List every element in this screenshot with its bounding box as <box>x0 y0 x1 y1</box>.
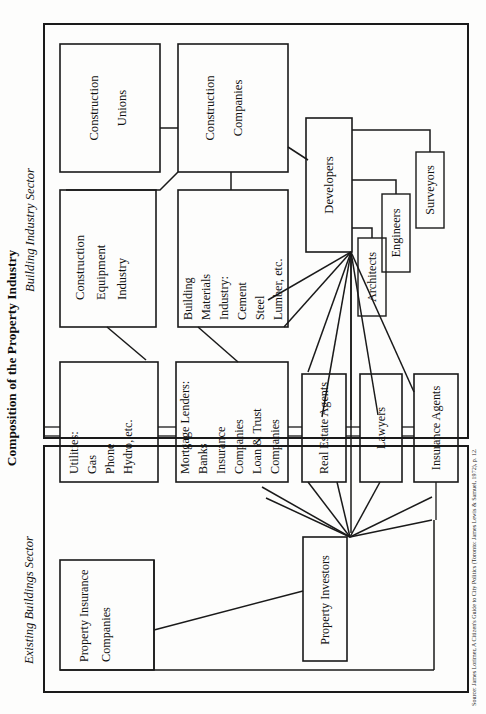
node-construction-companies-line2: Companies <box>231 80 245 137</box>
node-construction-equipment-line2: Equipment <box>94 244 108 300</box>
node-construction-unions-line2: Unions <box>115 90 129 126</box>
node-mortgage-lenders-line1: Mortgage Lenders: <box>178 381 192 474</box>
node-construction-unions[interactable]: Construction Unions <box>60 44 160 172</box>
edge-fan-property-investors <box>262 482 432 537</box>
node-utilities[interactable]: Utilities: Gas Phone Hydro, etc. <box>60 362 158 482</box>
node-mortgage-lenders-line4: Companies <box>232 419 246 474</box>
edge-companies-developers <box>288 147 308 160</box>
node-lawyers[interactable]: Lawyers <box>360 374 402 482</box>
sector-label-existing-buildings-text: Existing Buildings Sector <box>22 536 36 665</box>
node-construction-equipment-line1: Construction <box>73 234 87 300</box>
sector-frame-building-industry <box>44 24 468 438</box>
node-mortgage-lenders[interactable]: Mortgage Lenders: Banks Insurance Compan… <box>176 362 288 482</box>
node-building-materials-line1: Building <box>181 277 195 320</box>
node-utilities-line2: Gas <box>85 455 99 474</box>
node-construction-unions-line1: Construction <box>87 75 101 141</box>
edge-companies-equipment <box>66 172 178 190</box>
node-real-estate-agents-label: Real Estate Agents <box>317 382 331 474</box>
node-real-estate-agents[interactable]: Real Estate Agents <box>302 374 346 482</box>
node-developers-label: Developers <box>322 156 336 213</box>
node-building-materials-line2: Materials <box>199 274 213 320</box>
page-title: Composition of the Property Industry <box>4 250 19 467</box>
edge-materials-lenders <box>198 327 238 362</box>
node-property-investors-label: Property Investors <box>318 555 332 645</box>
node-surveyors-label: Surveyors <box>423 165 437 215</box>
source-credit: Source: James Lorimer, A Citizen's Guide… <box>471 448 478 706</box>
node-building-materials[interactable]: Building Materials Industry: Cement Stee… <box>178 190 288 327</box>
node-insurance-agents-label: Insurance Agents <box>429 386 443 471</box>
edge-developers-engineers <box>352 180 396 194</box>
node-property-insurance-line2: Companies <box>99 607 113 662</box>
node-mortgage-lenders-line3: Insurance <box>214 427 228 474</box>
node-property-insurance-line1: Property Insurance <box>77 570 91 662</box>
node-construction-companies-line1: Construction <box>203 75 217 141</box>
page-title-text: Composition of the Property Industry <box>4 250 19 467</box>
node-lawyers-label: Lawyers <box>374 407 388 449</box>
node-building-materials-line5: Steel <box>253 295 267 320</box>
node-developers[interactable]: Developers <box>306 118 352 252</box>
node-building-materials-line4: Cement <box>235 281 249 320</box>
node-mortgage-lenders-line6: Companies <box>268 419 282 474</box>
sector-label-building-industry: Building Industry Sector <box>23 168 37 292</box>
node-construction-equipment-line3: Industry <box>115 257 129 300</box>
edge-equipment-utilities <box>107 327 146 360</box>
node-building-materials-line3: Industry: <box>217 276 231 320</box>
edge-fan-developers <box>268 252 414 533</box>
node-construction-equipment[interactable]: Construction Equipment Industry <box>60 190 156 327</box>
edge-developers-architects <box>352 228 372 238</box>
node-utilities-line4: Hydro, etc. <box>121 420 135 475</box>
sector-label-existing-buildings: Existing Buildings Sector <box>22 536 36 665</box>
edge-developers-surveyors <box>352 130 430 152</box>
node-surveyors[interactable]: Surveyors <box>416 152 444 228</box>
node-construction-companies[interactable]: Construction Companies <box>178 44 288 172</box>
node-engineers-label: Engineers <box>389 208 403 257</box>
edge-propinsurance-investors <box>154 591 303 630</box>
node-utilities-line1: Utilities: <box>67 431 81 474</box>
node-property-investors[interactable]: Property Investors <box>303 537 347 661</box>
node-property-insurance[interactable]: Property Insurance Companies <box>60 560 154 670</box>
node-building-materials-line6: Lumber, etc. <box>271 259 285 320</box>
node-mortgage-lenders-line2: Banks <box>196 443 210 474</box>
diagram-canvas: Composition of the Property Industry Bui… <box>0 0 486 714</box>
sector-label-building-industry-text: Building Industry Sector <box>23 168 37 292</box>
figure-page: Composition of the Property Industry Bui… <box>0 0 486 714</box>
node-mortgage-lenders-line5: Loan & Trust <box>250 408 264 474</box>
node-utilities-line3: Phone <box>103 444 117 474</box>
node-architects-label: Architects <box>365 252 379 302</box>
source-credit-text: Source: James Lorimer, A Citizen's Guide… <box>471 448 478 706</box>
node-insurance-agents[interactable]: Insurance Agents <box>414 374 458 482</box>
